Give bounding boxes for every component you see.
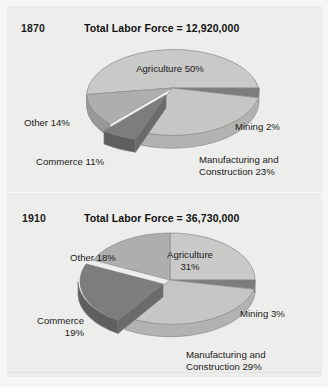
label-mining-1910: Mining 3% [240, 308, 285, 320]
label-agriculture-1870: Agriculture 50% [105, 63, 235, 75]
label-agriculture-line2-1910: 31% [140, 261, 240, 273]
label-manufacturing-line1-1870: Manufacturing and [199, 154, 278, 166]
label-other-1910: Other 18% [70, 252, 116, 264]
total-labor-force-1870: Total Labor Force = 12,920,000 [84, 22, 239, 34]
label-commerce-1870: Commerce 11% [36, 156, 104, 168]
total-labor-force-1910: Total Labor Force = 36,730,000 [84, 212, 239, 224]
label-manufacturing-line2-1870: Construction 23% [199, 166, 275, 178]
label-manufacturing-line2-1910: Construction 29% [186, 361, 262, 373]
label-mining-1870: Mining 2% [235, 121, 280, 133]
label-commerce-line1-1910: Commerce [10, 315, 84, 327]
label-agriculture-line1-1910: Agriculture [140, 249, 240, 261]
labor-force-figure: 1870 Total Labor Force = 12,920,000 [0, 0, 328, 387]
label-commerce-line2-1910: 19% [10, 327, 84, 339]
label-other-1870: Other 14% [24, 117, 70, 129]
label-manufacturing-line1-1910: Manufacturing and [186, 349, 265, 361]
year-label-1870: 1870 [21, 22, 45, 34]
chart-panel-1870: 1870 Total Labor Force = 12,920,000 [0, 0, 328, 192]
year-label-1910: 1910 [22, 212, 46, 224]
chart-panel-1910: 1910 Total Labor Force = 36,730,000 [0, 192, 328, 387]
